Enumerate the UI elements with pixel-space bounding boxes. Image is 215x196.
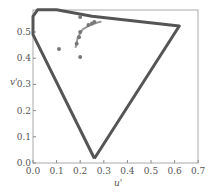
x-axis-label: u' bbox=[114, 178, 122, 188]
y-tick-label: 0.1 bbox=[17, 132, 31, 142]
x-tick-label: 0.7 bbox=[191, 166, 206, 176]
y-tick-label: 0.4 bbox=[17, 53, 32, 63]
data-point bbox=[78, 55, 82, 59]
data-point bbox=[78, 15, 82, 19]
x-tick-label: 0.1 bbox=[49, 166, 63, 176]
y-tick-label: 0.5 bbox=[17, 27, 32, 37]
x-tick-label: 0.6 bbox=[167, 166, 182, 176]
y-tick-label: 0.3 bbox=[17, 79, 32, 89]
x-tick-label: 0.2 bbox=[73, 166, 87, 176]
data-point bbox=[57, 47, 61, 51]
y-tick-label: 0.0 bbox=[17, 158, 32, 168]
y-axis-label: v' bbox=[10, 77, 18, 87]
x-tick-label: 0.4 bbox=[120, 166, 135, 176]
x-tick-label: 0.3 bbox=[97, 166, 112, 176]
x-tick-label: 0.5 bbox=[144, 166, 159, 176]
data-point bbox=[78, 30, 82, 34]
data-point bbox=[75, 42, 79, 46]
data-point bbox=[92, 20, 96, 24]
chromaticity-chart: 0.00.10.20.30.40.50.60.70.00.10.20.30.40… bbox=[0, 0, 215, 196]
data-point bbox=[86, 23, 90, 27]
data-point bbox=[77, 35, 81, 39]
y-tick-label: 0.2 bbox=[17, 106, 31, 116]
